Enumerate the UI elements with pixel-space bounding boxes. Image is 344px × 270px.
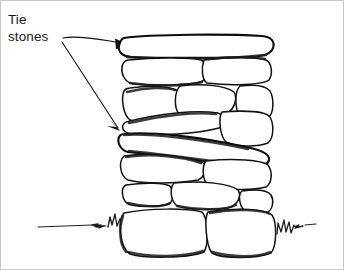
course-8-base [120,209,275,257]
stone-base-right [206,209,276,257]
stone-c7-mid [171,182,239,209]
stone-c4-right [220,111,273,146]
leader-to-middle-tie-stone-line [62,42,118,128]
stone-wall-drawing [0,0,344,270]
stone-base-left [120,209,207,257]
leader-to-middle-tie-stone-arrowhead [107,117,120,131]
course-2 [122,57,272,85]
stone-tie-top [119,35,274,58]
figure-canvas: Tie stones [0,0,344,270]
stone-c6-left [121,154,206,183]
stone-c2-right [202,58,271,85]
stone-c2-left [122,58,207,85]
leader-lines-group [62,37,127,131]
ground-line-right [305,224,316,225]
course-1-tie-stone [119,35,274,59]
ground-line-left [38,225,92,227]
grass-tuft-right [277,220,303,234]
